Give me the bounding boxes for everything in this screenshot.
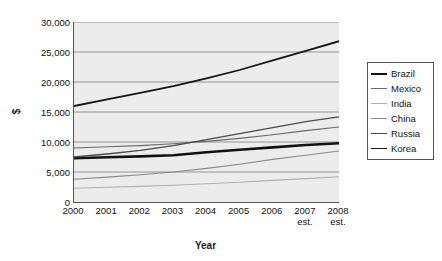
legend-swatch-icon bbox=[371, 103, 387, 104]
legend-swatch-icon bbox=[371, 88, 387, 89]
legend-item-india[interactable]: India bbox=[371, 96, 430, 111]
x-axis-tick: 2007est. bbox=[294, 205, 315, 227]
x-axis-tick: 2006 bbox=[261, 205, 282, 216]
y-axis-tick: 25,000 bbox=[41, 47, 70, 58]
x-axis-tick-year: 2006 bbox=[261, 205, 282, 216]
x-axis-tick: 2004 bbox=[195, 205, 216, 216]
x-axis-tick: 2001 bbox=[96, 205, 117, 216]
line-chart: $ 05,00010,00015,00020,00025,00030,000 2… bbox=[0, 0, 442, 261]
chart-legend: BrazilMexicoIndiaChinaRussiaKorea bbox=[367, 62, 434, 160]
legend-label: Mexico bbox=[391, 83, 421, 94]
legend-label: India bbox=[391, 98, 412, 109]
series-line-china bbox=[74, 151, 339, 179]
legend-swatch-icon bbox=[371, 148, 387, 149]
legend-swatch-icon bbox=[371, 133, 387, 134]
x-axis-tick-year: 2004 bbox=[195, 205, 216, 216]
x-axis-tick-year: 2003 bbox=[162, 205, 183, 216]
x-axis-tick-labels: 20002001200220032004200520062007est.2008… bbox=[73, 205, 338, 245]
legend-swatch-icon bbox=[371, 73, 387, 75]
legend-label: Russia bbox=[391, 128, 420, 139]
x-axis-tick: 2008est. bbox=[327, 205, 348, 227]
y-axis-tick: 5,000 bbox=[46, 167, 70, 178]
x-axis-title: Year bbox=[73, 240, 338, 251]
plot-area bbox=[73, 22, 339, 203]
legend-label: China bbox=[391, 113, 416, 124]
x-axis-tick: 2003 bbox=[162, 205, 183, 216]
x-axis-tick-year: 2008 bbox=[327, 205, 348, 216]
series-line-korea bbox=[74, 41, 339, 106]
x-axis-tick: 2000 bbox=[62, 205, 83, 216]
legend-item-mexico[interactable]: Mexico bbox=[371, 81, 430, 96]
y-axis-tick: 20,000 bbox=[41, 77, 70, 88]
legend-label: Korea bbox=[391, 143, 416, 154]
x-axis-tick-note: est. bbox=[294, 216, 315, 227]
x-axis-tick-year: 2001 bbox=[96, 205, 117, 216]
y-axis-tick: 30,000 bbox=[41, 17, 70, 28]
x-axis-tick-year: 2007 bbox=[294, 205, 315, 216]
y-axis-tick-labels: 05,00010,00015,00020,00025,00030,000 bbox=[20, 0, 70, 210]
x-axis-tick: 2002 bbox=[129, 205, 150, 216]
x-axis-tick-year: 2000 bbox=[62, 205, 83, 216]
y-axis-tick: 15,000 bbox=[41, 107, 70, 118]
x-axis-tick-year: 2002 bbox=[129, 205, 150, 216]
plot-lines bbox=[74, 22, 339, 202]
legend-label: Brazil bbox=[391, 68, 415, 79]
y-axis-tick: 10,000 bbox=[41, 137, 70, 148]
legend-item-korea[interactable]: Korea bbox=[371, 141, 430, 156]
series-line-india bbox=[74, 177, 339, 188]
x-axis-tick-year: 2005 bbox=[228, 205, 249, 216]
x-axis-tick-note: est. bbox=[327, 216, 348, 227]
legend-item-china[interactable]: China bbox=[371, 111, 430, 126]
x-axis-tick: 2005 bbox=[228, 205, 249, 216]
legend-item-brazil[interactable]: Brazil bbox=[371, 66, 430, 81]
legend-item-russia[interactable]: Russia bbox=[371, 126, 430, 141]
legend-swatch-icon bbox=[371, 118, 387, 119]
